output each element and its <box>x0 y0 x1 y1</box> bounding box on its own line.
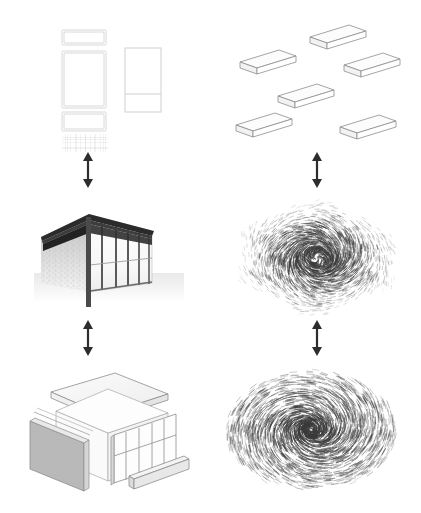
slab-2 <box>310 25 366 49</box>
floor-plan <box>62 51 106 108</box>
arrow-middle-right-to-bottom-right <box>308 320 326 356</box>
arrow-middle-left-to-bottom-left <box>79 320 97 356</box>
arrow-top-right-to-middle-right <box>308 152 326 188</box>
panel-perspective-render <box>24 195 194 315</box>
panel-swirling-vector-field <box>225 358 410 498</box>
slab-3 <box>344 53 400 77</box>
elevation-drawing <box>125 48 161 112</box>
slab-5 <box>236 113 292 137</box>
panel-exploded-axonometric <box>18 363 203 498</box>
panel-orthographic-drawing-set <box>40 22 170 147</box>
panel-floating-slab-array <box>222 20 412 150</box>
arrow-top-left-to-middle-left <box>79 152 97 188</box>
slab-4 <box>278 84 334 108</box>
roof-plan-strip <box>62 30 106 45</box>
corner-column <box>86 217 91 307</box>
figure-canvas <box>0 0 421 513</box>
site-grid-hatch <box>62 134 108 152</box>
slab-1 <box>240 50 296 74</box>
panel-dense-vector-volume <box>225 190 410 325</box>
section-strip <box>62 112 106 131</box>
slab-6 <box>340 115 396 139</box>
